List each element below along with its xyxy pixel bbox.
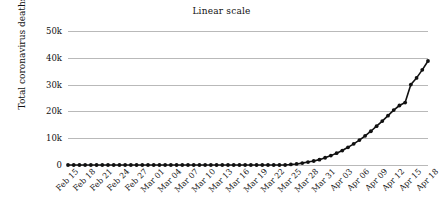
data-point-marker bbox=[369, 129, 373, 133]
y-axis-tick-labels: 010k20k30k40k50k bbox=[0, 31, 68, 165]
data-point-marker bbox=[426, 59, 430, 63]
data-point-marker bbox=[289, 163, 293, 167]
deaths-line-series bbox=[68, 31, 428, 165]
data-point-marker bbox=[363, 134, 367, 138]
y-tick-label: 50k bbox=[46, 26, 62, 36]
series-line bbox=[68, 61, 428, 165]
chart-container: Linear scale Total coronavirus deaths 01… bbox=[0, 0, 443, 219]
data-point-marker bbox=[335, 151, 339, 155]
data-point-marker bbox=[318, 158, 322, 162]
data-point-marker bbox=[380, 119, 384, 123]
data-point-marker bbox=[340, 149, 344, 153]
data-point-marker bbox=[386, 114, 390, 118]
data-point-marker bbox=[329, 154, 333, 158]
data-point-marker bbox=[300, 161, 304, 165]
data-point-marker bbox=[392, 108, 396, 112]
data-point-marker bbox=[358, 138, 362, 142]
plot-area bbox=[68, 31, 428, 165]
data-point-marker bbox=[323, 156, 327, 160]
y-tick-label: 0 bbox=[57, 160, 62, 170]
data-point-marker bbox=[403, 101, 407, 105]
data-point-marker bbox=[415, 76, 419, 80]
data-point-marker bbox=[409, 83, 413, 87]
y-tick-label: 20k bbox=[46, 106, 62, 116]
y-tick-label: 30k bbox=[46, 80, 62, 90]
y-tick-label: 10k bbox=[46, 133, 62, 143]
data-point-marker bbox=[352, 142, 356, 146]
x-axis-tick-labels: Feb 15Feb 18Feb 21Feb 24Feb 27Mar 01Mar … bbox=[68, 167, 428, 219]
data-point-marker bbox=[420, 68, 424, 72]
data-point-marker bbox=[306, 160, 310, 164]
data-point-marker bbox=[346, 145, 350, 149]
data-point-marker bbox=[375, 124, 379, 128]
data-point-marker bbox=[312, 159, 316, 163]
data-point-marker bbox=[295, 162, 299, 166]
data-point-marker bbox=[398, 104, 402, 108]
y-tick-label: 40k bbox=[46, 53, 62, 63]
chart-title: Linear scale bbox=[0, 6, 443, 16]
